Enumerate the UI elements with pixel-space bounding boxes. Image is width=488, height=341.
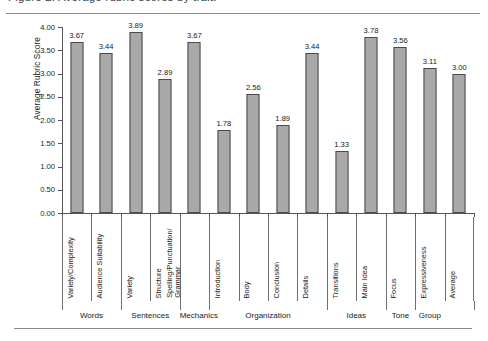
bar — [306, 53, 319, 213]
group-separator — [209, 301, 210, 310]
category-label: Variety — [125, 276, 133, 298]
bar-value-label: 3.56 — [393, 36, 408, 45]
bar — [276, 125, 289, 213]
bar-value-label: 3.89 — [128, 21, 143, 30]
bar — [453, 74, 466, 214]
group-separator — [386, 301, 387, 310]
category-label-cell: Expressiveness — [415, 217, 444, 301]
bar-value-label: 1.78 — [216, 119, 231, 128]
bar-slot: 3.67 — [62, 27, 91, 213]
group-separator — [180, 301, 181, 310]
category-label: Audience Suitability — [96, 233, 104, 298]
plot-area: 0.000.501.001.502.002.503.003.504.00 3.6… — [62, 27, 474, 213]
bar-slot: 3.44 — [91, 27, 120, 213]
bar-slot: 1.33 — [327, 27, 356, 213]
bar-value-label: 3.11 — [423, 57, 437, 66]
category-label: Variety/Complexity — [66, 237, 74, 298]
bar-value-label: 3.67 — [187, 31, 202, 40]
group-label: Organization — [209, 311, 327, 320]
category-label: Introduction — [213, 259, 221, 298]
bar — [158, 79, 171, 213]
category-label-cell: Body — [239, 217, 268, 301]
category-label: Focus — [390, 278, 398, 298]
y-axis-tick-label: 1.00 — [40, 162, 55, 171]
bar-value-label: 3.44 — [99, 42, 114, 51]
bar-value-label: 3.78 — [364, 26, 379, 35]
bar-chart-figure: Average Rubric Score 0.000.501.001.502.0… — [0, 18, 488, 324]
category-label-cell: Introduction — [209, 217, 238, 301]
caption-divider-rule — [6, 13, 480, 14]
bar-slot: 3.56 — [386, 27, 415, 213]
bar — [217, 130, 230, 213]
bar-slot: 3.11 — [415, 27, 444, 213]
bar — [188, 42, 201, 213]
group-label: Group — [415, 311, 444, 320]
y-axis-tick-label: 4.00 — [40, 23, 55, 32]
group-separator — [121, 301, 122, 310]
bar — [70, 42, 83, 213]
category-label: Conclusion — [272, 261, 280, 298]
category-label: Main Idea — [361, 266, 369, 298]
category-label-cell: Transitions — [327, 217, 356, 301]
bar-slot: 3.78 — [356, 27, 385, 213]
group-label: Ideas — [327, 311, 386, 320]
group-label: Tone — [386, 311, 415, 320]
y-axis-tick-label: 0.00 — [40, 209, 55, 218]
bar-slot: 2.89 — [150, 27, 179, 213]
group-separator — [62, 301, 63, 310]
y-axis-tick-label: 1.50 — [40, 139, 55, 148]
bar — [423, 68, 436, 213]
group-separator — [327, 301, 328, 310]
bar — [247, 94, 260, 213]
bar — [100, 53, 113, 213]
group-label: Mechanics — [180, 311, 209, 320]
group-label: Sentences — [121, 311, 180, 320]
bar-value-label: 1.33 — [334, 140, 349, 149]
bar-value-label: 3.00 — [452, 63, 467, 72]
y-axis-tick-label: 3.00 — [40, 69, 55, 78]
category-label-cell: Variety — [121, 217, 150, 301]
bar — [129, 32, 142, 213]
category-label: Details — [302, 275, 310, 298]
bar-value-label: 3.44 — [305, 42, 320, 51]
bar — [364, 37, 377, 213]
bar — [335, 151, 348, 213]
bar-slot: 3.00 — [445, 27, 474, 213]
bar-slot: 1.78 — [209, 27, 238, 213]
group-label: Words — [62, 311, 121, 320]
category-label: Average — [449, 271, 457, 298]
bar-value-label: 2.56 — [246, 83, 261, 92]
bar-value-label: 3.67 — [69, 31, 84, 40]
category-label: Structure — [155, 268, 163, 298]
category-label: Body — [243, 281, 251, 298]
category-label-cell: Focus — [386, 217, 415, 301]
category-label-cell: Audience Suitability — [91, 217, 120, 301]
category-label: Expressiveness — [419, 246, 427, 298]
category-label: Spelling/Punctuation/ Grammar — [166, 220, 183, 298]
category-label-cell: Variety/Complexity — [62, 217, 91, 301]
bar-value-label: 2.89 — [158, 68, 173, 77]
y-axis-tick-label: 2.00 — [40, 116, 55, 125]
bar-value-label: 1.89 — [275, 114, 290, 123]
bar-slot: 3.44 — [297, 27, 326, 213]
group-label-band: WordsSentencesMechanicsOrganizationIdeas… — [62, 301, 474, 324]
y-axis-tick-label: 2.50 — [40, 92, 55, 101]
y-axis-tick-label: 3.50 — [40, 46, 55, 55]
group-separator — [415, 301, 416, 310]
category-label-cell: Details — [297, 217, 326, 301]
group-separator — [474, 301, 475, 310]
bar-slot: 3.67 — [180, 27, 209, 213]
category-label-band: Variety/ComplexityAudience SuitabilityVa… — [62, 217, 474, 301]
y-axis-tick-label: 0.50 — [40, 185, 55, 194]
bottom-divider-rule — [14, 328, 472, 329]
bar-slot: 2.56 — [239, 27, 268, 213]
category-label-cell: Spelling/Punctuation/ Grammar — [180, 217, 209, 301]
bar — [394, 47, 407, 213]
category-label: Transitions — [331, 262, 339, 298]
bar-slot: 3.89 — [121, 27, 150, 213]
bar-slot: 1.89 — [268, 27, 297, 213]
x-axis-tick — [474, 213, 475, 217]
category-label-cell: Main Idea — [356, 217, 385, 301]
figure-caption-strip: Figure 2. Average rubric scores by trait… — [0, 0, 488, 13]
category-label-cell: Conclusion — [268, 217, 297, 301]
